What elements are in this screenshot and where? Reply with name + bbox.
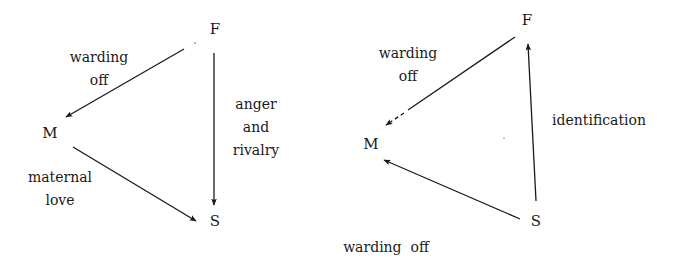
label-line: rivalry <box>233 139 280 162</box>
stray-dot <box>194 42 196 44</box>
label-line: off <box>70 69 128 92</box>
node-right-father: F <box>522 13 532 28</box>
label-line: maternal <box>28 166 92 189</box>
node-left-father: F <box>210 22 220 37</box>
label-line: and <box>233 116 280 139</box>
label-line: identification <box>552 109 646 132</box>
label-right-identification: identification <box>552 109 646 132</box>
label-line: love <box>28 189 92 212</box>
node-left-son: S <box>210 214 220 229</box>
label-right-warding-off-upper: warding off <box>379 42 437 88</box>
label-line: warding <box>70 46 128 69</box>
label-line: warding <box>379 42 437 65</box>
node-right-son: S <box>531 214 541 229</box>
node-right-mother: M <box>363 137 378 152</box>
label-line: warding off <box>343 236 429 259</box>
label-line: anger <box>233 93 280 116</box>
label-right-warding-off-lower: warding off <box>343 190 429 259</box>
arrow-right-s-to-f <box>528 44 536 201</box>
stray-dot <box>503 137 504 138</box>
label-left-maternal-love: maternal love <box>28 166 92 212</box>
arrow-right-f-to-m-dashed <box>386 113 404 125</box>
label-line: off <box>379 65 437 88</box>
label-left-anger-rivalry: anger and rivalry <box>233 93 280 162</box>
node-left-mother: M <box>42 126 57 141</box>
label-left-warding-off: warding off <box>70 46 128 92</box>
